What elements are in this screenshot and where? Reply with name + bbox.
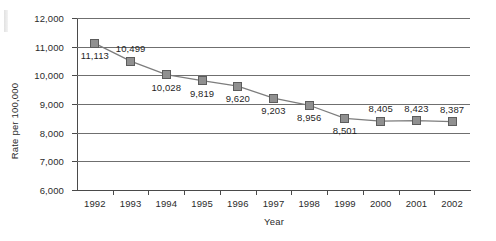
data-point-marker <box>126 57 135 66</box>
x-axis-tick <box>434 190 435 195</box>
data-point-marker <box>376 117 385 126</box>
y-axis-tick-label: 7,000 <box>40 156 64 167</box>
y-axis-tick-label: 8,000 <box>40 127 64 138</box>
data-point-marker <box>412 116 421 125</box>
x-axis-tick-label: 1996 <box>227 198 249 209</box>
x-axis-tick-label: 2000 <box>370 198 392 209</box>
scan-artifact <box>4 10 8 32</box>
x-axis-tick-label: 1999 <box>334 198 356 209</box>
chart-figure: Rate per 100,000 12,00011,00010,0009,000… <box>0 0 496 241</box>
data-point-label: 8,501 <box>333 125 357 136</box>
x-axis-tick <box>148 190 149 195</box>
plot-area: 12,00011,00010,0009,0008,0007,0006,000 1… <box>77 18 470 190</box>
y-axis-tick: 6,000 <box>72 190 77 191</box>
x-axis-tick <box>220 190 221 195</box>
x-axis-tick-label: 1993 <box>120 198 142 209</box>
x-axis-tick-label: 1994 <box>156 198 178 209</box>
x-axis-tick <box>256 190 257 195</box>
x-axis-tick <box>399 190 400 195</box>
y-axis-tick-label: 11,000 <box>35 41 64 52</box>
x-axis-tick <box>113 190 114 195</box>
data-point-label: 10,499 <box>116 43 146 54</box>
x-axis-tick-label: 2001 <box>406 198 428 209</box>
data-point-label: 8,423 <box>404 103 428 114</box>
data-point-marker <box>305 101 314 110</box>
y-axis-tick-label: 6,000 <box>40 185 64 196</box>
data-point-marker <box>269 94 278 103</box>
y-axis-tick-label: 12,000 <box>34 13 64 24</box>
x-axis-tick <box>184 190 185 195</box>
data-point-label: 11,113 <box>81 50 109 61</box>
x-axis-tick <box>327 190 328 195</box>
data-point-marker <box>198 76 207 85</box>
x-axis-tick <box>291 190 292 195</box>
x-axis-title: Year <box>77 216 471 227</box>
x-axis-line <box>77 190 471 191</box>
x-axis-tick-label: 1992 <box>84 198 106 209</box>
data-point-label: 9,203 <box>261 105 285 116</box>
y-axis-tick-label: 10,000 <box>34 70 64 81</box>
data-point-label: 9,620 <box>226 93 250 104</box>
x-axis-tick-label: 1995 <box>191 198 213 209</box>
data-point-label: 9,819 <box>190 88 214 99</box>
data-point-label: 8,956 <box>297 112 321 123</box>
x-axis-tick-label: 1998 <box>298 198 320 209</box>
data-point-label: 10,028 <box>151 82 181 93</box>
x-axis-tick-label: 1997 <box>263 198 285 209</box>
data-point-marker <box>448 117 457 126</box>
x-axis-tick-label: 2002 <box>441 198 463 209</box>
data-point-marker <box>90 39 99 48</box>
y-axis-title: Rate per 100,000 <box>9 82 20 159</box>
data-point-marker <box>340 114 349 123</box>
data-point-label: 8,405 <box>369 103 393 114</box>
x-axis-tick <box>363 190 364 195</box>
data-point-marker <box>162 70 171 79</box>
data-point-marker <box>233 82 242 91</box>
data-point-label: 8,387 <box>440 104 464 115</box>
y-axis-tick-label: 9,000 <box>40 99 64 110</box>
